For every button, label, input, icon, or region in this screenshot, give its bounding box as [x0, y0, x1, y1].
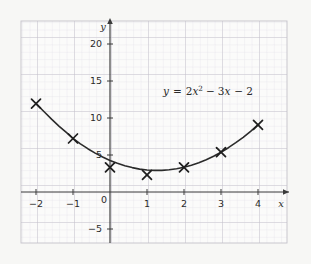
grid-lines: [21, 21, 287, 243]
y-axis-label: y: [99, 21, 106, 32]
equation-coef-b: 3: [218, 85, 225, 97]
chart-canvas: −2 −1 0 1 2 3 4 5 10 15 20 −5 x y: [0, 0, 311, 264]
equation-annotation: y=2x2−3x−2: [162, 84, 253, 97]
x-tick-label-0: 0: [101, 194, 107, 205]
x-tick-label-3: 3: [218, 198, 224, 209]
equation-minus-1: −: [206, 85, 215, 97]
x-tick-label-4: 4: [255, 198, 261, 209]
equation-equals: =: [173, 85, 182, 97]
y-tick-label-10: 10: [90, 112, 102, 123]
equation-minus-2: −: [234, 85, 243, 97]
equation-var-b: x: [224, 85, 230, 97]
x-tick-label--1: −1: [66, 198, 80, 209]
plot-grid: [21, 21, 287, 243]
quadratic-graph-figure: −2 −1 0 1 2 3 4 5 10 15 20 −5 x y: [0, 0, 311, 264]
equation-coef-a: 2: [186, 85, 193, 97]
equation-label: y=2x2−3x−2: [162, 84, 253, 97]
equation-lhs: y: [162, 85, 170, 97]
y-tick-label-20: 20: [90, 38, 102, 49]
equation-exponent: 2: [198, 84, 203, 93]
x-tick-label--2: −2: [29, 198, 43, 209]
equation-const-c: 2: [246, 85, 253, 97]
x-tick-label-1: 1: [144, 198, 150, 209]
y-tick-label--5: −5: [88, 223, 102, 234]
y-tick-label-15: 15: [90, 75, 102, 86]
x-axis-label: x: [278, 198, 284, 209]
x-tick-label-2: 2: [181, 198, 187, 209]
